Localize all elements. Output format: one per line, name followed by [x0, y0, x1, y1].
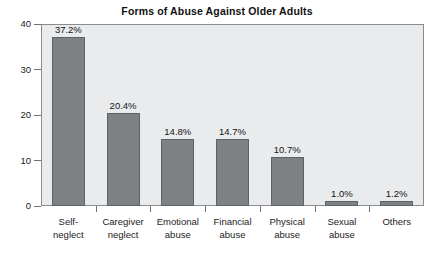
bar-value-label: 20.4%: [97, 100, 150, 111]
x-axis-tick-mark: [369, 206, 370, 212]
bar: 14.8%: [161, 24, 194, 206]
y-axis-tick: 0: [0, 200, 41, 212]
x-axis-category-label: Sexualabuse: [315, 216, 370, 241]
bars-layer: 37.2%20.4%14.8%14.7%10.7%1.0%1.2%: [41, 24, 424, 206]
bar: 10.7%: [271, 24, 304, 206]
y-axis-tick-mark: [34, 115, 41, 116]
y-axis-tick-label: 10: [20, 155, 31, 167]
x-axis-category-line: Self-: [41, 216, 96, 229]
x-axis-category-label: Caregiverneglect: [96, 216, 151, 241]
y-axis-tick: 20: [0, 109, 41, 121]
bar-rect: [216, 139, 249, 206]
x-axis-category-label: Self-neglect: [41, 216, 96, 241]
x-axis-category-label: Financialabuse: [205, 216, 260, 241]
x-axis-tick-mark: [260, 206, 261, 212]
x-axis-category-line: abuse: [205, 229, 260, 242]
y-axis-tick-label: 20: [20, 109, 31, 121]
x-axis-tick-mark: [205, 206, 206, 212]
bar-chart: Forms of Abuse Against Older Adults 40 3…: [0, 0, 434, 256]
bar-rect: [271, 157, 304, 206]
x-axis-category-line: neglect: [41, 229, 96, 242]
x-axis-category-line: abuse: [150, 229, 205, 242]
x-axis-category-label: Others: [369, 216, 424, 229]
y-axis-tick: 10: [0, 155, 41, 167]
y-axis-tick: 40: [0, 18, 41, 30]
bar: 20.4%: [107, 24, 140, 206]
x-axis-category-line: abuse: [260, 229, 315, 242]
bar-value-label: 14.8%: [151, 126, 204, 137]
y-axis-tick-mark: [34, 24, 41, 25]
bar: 37.2%: [52, 24, 85, 206]
y-axis-tick-mark: [34, 69, 41, 70]
bar: 1.2%: [380, 24, 413, 206]
y-axis-tick: 30: [0, 64, 41, 76]
bar-rect: [52, 37, 85, 206]
x-axis-category-line: neglect: [96, 229, 151, 242]
chart-title: Forms of Abuse Against Older Adults: [0, 5, 434, 17]
bar-value-label: 10.7%: [261, 144, 314, 155]
y-axis-tick-mark: [34, 160, 41, 161]
x-axis-category-line: Caregiver: [96, 216, 151, 229]
y-axis-tick-label: 40: [20, 18, 31, 30]
x-axis-tick-mark: [315, 206, 316, 212]
y-axis-tick-label: 30: [20, 64, 31, 76]
x-axis-category-line: Others: [369, 216, 424, 229]
x-axis-tick-mark: [150, 206, 151, 212]
bar-value-label: 37.2%: [42, 24, 95, 35]
bar-value-label: 1.2%: [370, 188, 423, 199]
x-axis-category-label: Emotionalabuse: [150, 216, 205, 241]
bar: 14.7%: [216, 24, 249, 206]
y-axis: 40 30 20 10 0: [0, 0, 41, 256]
y-axis-tick-mark: [34, 206, 41, 207]
x-axis-tick-mark: [96, 206, 97, 212]
x-axis-category-line: Emotional: [150, 216, 205, 229]
x-axis: Self-neglectCaregiverneglectEmotionalabu…: [41, 206, 424, 256]
bar-rect: [161, 139, 194, 206]
y-axis-tick-label: 0: [26, 200, 31, 212]
x-axis-category-line: Financial: [205, 216, 260, 229]
x-axis-category-line: abuse: [315, 229, 370, 242]
x-axis-category-line: Physical: [260, 216, 315, 229]
bar-value-label: 14.7%: [206, 126, 259, 137]
bar: 1.0%: [325, 24, 358, 206]
x-axis-category-label: Physicalabuse: [260, 216, 315, 241]
x-axis-category-line: Sexual: [315, 216, 370, 229]
bar-value-label: 1.0%: [315, 188, 368, 199]
bar-rect: [107, 113, 140, 206]
